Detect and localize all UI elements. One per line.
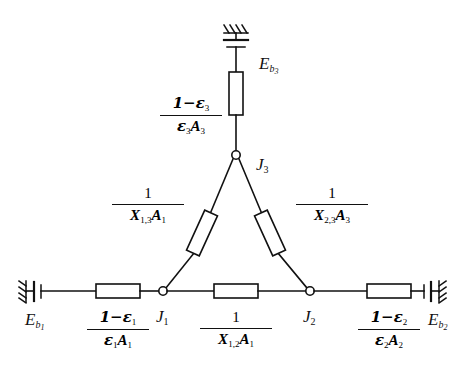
- r12-den-area-sub: 1: [249, 338, 254, 348]
- r2-den-area: A: [389, 332, 399, 348]
- j2-symbol: J: [303, 307, 311, 326]
- label-node-j2: J2: [303, 308, 316, 327]
- r2-frac-bar: [358, 329, 420, 330]
- resistor-surface-2: [314, 284, 424, 298]
- r3-den-area: A: [191, 118, 201, 134]
- label-eb2: Eb2: [428, 311, 447, 332]
- j2-sub: 2: [311, 316, 316, 327]
- r3-num-sub: 3: [205, 103, 210, 113]
- node-j3: [232, 151, 240, 159]
- ground-symbol-left: [19, 281, 26, 303]
- battery-symbol-left: [26, 282, 96, 301]
- label-resistance-space-23: 1 X2,3A3: [296, 186, 368, 225]
- label-resistance-space-13: 1 X1,3A1: [112, 186, 184, 225]
- r13-num: 1: [112, 186, 184, 203]
- r12-frac-bar: [200, 328, 272, 329]
- label-resistance-surface-2: 1−ε2 ε2A2: [358, 310, 420, 350]
- r13-den-area-sub: 1: [161, 214, 166, 224]
- eb3-symbol: E: [259, 54, 269, 73]
- resistor-surface-3: [229, 72, 243, 155]
- r1-den-area-sub: 1: [128, 339, 133, 349]
- label-resistance-surface-1: 1−ε1 ε1A1: [87, 310, 149, 350]
- node-j1: [159, 287, 167, 295]
- j3-sub: 3: [264, 164, 269, 175]
- r2-den-area-sub: 2: [399, 339, 404, 349]
- r3-den-area-sub: 3: [201, 125, 206, 135]
- r13-den-area: A: [151, 207, 161, 223]
- label-node-j1: J1: [156, 308, 169, 327]
- resistor-surface-1: [96, 284, 159, 298]
- r13-frac-bar: [112, 204, 184, 205]
- eb3-subsub: 3: [274, 67, 278, 76]
- r23-num: 1: [296, 186, 368, 203]
- battery-symbol-right: [424, 282, 439, 301]
- r12-den-x: X: [218, 331, 228, 347]
- r3-num: 1−ε: [173, 94, 205, 112]
- r23-den-x-sub: 2,3: [324, 214, 335, 224]
- label-resistance-space-12: 1 X1,2A1: [200, 310, 272, 349]
- ground-symbol-right: [439, 281, 446, 303]
- resistor-box-space-23: [255, 210, 286, 256]
- battery-symbol-top: [224, 33, 248, 72]
- resistor-box-space-13: [187, 210, 218, 256]
- r12-den-x-sub: 1,2: [228, 338, 239, 348]
- label-resistance-surface-3: 1−ε3 ε3A3: [160, 96, 222, 136]
- figure-canvas: Eb3 1−ε3 ε3A3 J3 1 X1,3A1 1 X2,3A3 Eb1 1…: [0, 0, 466, 380]
- resistor-space-12: [167, 284, 306, 298]
- label-eb3: Eb3: [259, 55, 278, 76]
- r23-frac-bar: [296, 204, 368, 205]
- r1-den-eps: ε: [104, 331, 113, 349]
- r23-den-x: X: [314, 207, 324, 223]
- r23-den-area: A: [335, 207, 345, 223]
- label-eb1: Eb1: [25, 311, 44, 332]
- r1-num-sub: 1: [132, 317, 137, 327]
- r23-den-area-sub: 3: [345, 214, 350, 224]
- r1-frac-bar: [87, 329, 149, 330]
- r13-den-x-sub: 1,3: [140, 214, 151, 224]
- r1-den-area: A: [118, 332, 128, 348]
- label-node-j3: J3: [256, 156, 269, 175]
- j1-sub: 1: [164, 316, 169, 327]
- ground-symbol-top: [224, 25, 248, 33]
- r13-den-x: X: [130, 207, 140, 223]
- eb2-subsub: 2: [443, 323, 447, 332]
- r2-den-eps: ε: [375, 331, 384, 349]
- node-j2: [306, 287, 314, 295]
- eb1-symbol: E: [25, 310, 35, 329]
- r12-num: 1: [200, 310, 272, 327]
- eb1-subsub: 1: [40, 323, 44, 332]
- j3-symbol: J: [256, 155, 264, 174]
- eb2-symbol: E: [428, 310, 438, 329]
- r3-den-eps: ε: [177, 117, 186, 135]
- r12-den-area: A: [239, 331, 249, 347]
- r2-num-sub: 2: [403, 317, 408, 327]
- j1-symbol: J: [156, 307, 164, 326]
- r1-num: 1−ε: [100, 308, 132, 326]
- r2-num: 1−ε: [371, 308, 403, 326]
- r3-frac-bar: [160, 115, 222, 116]
